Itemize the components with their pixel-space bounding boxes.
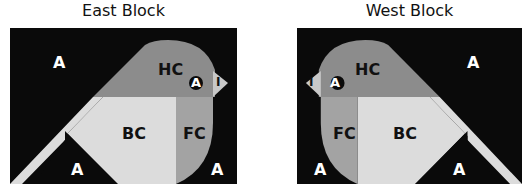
west-block-svg <box>297 28 522 184</box>
east-block-svg <box>10 28 237 184</box>
east-block-title: East Block <box>10 1 237 20</box>
label-air-bottom-right: A <box>453 160 465 179</box>
label-air-top-right: A <box>467 53 479 72</box>
label-body-crown: BC <box>393 124 417 143</box>
label-head-crown: HC <box>158 60 183 79</box>
label-air-top-left: A <box>53 53 65 72</box>
west-block-title: West Block <box>297 1 522 20</box>
label-air-bottom-left: A <box>71 160 83 179</box>
label-front-crown: FC <box>183 124 206 143</box>
east-block-diagram: A HC A I BC FC A A <box>10 28 237 184</box>
label-interior: I <box>309 75 313 89</box>
label-air-bottom-right: A <box>211 160 223 179</box>
label-front-crown: FC <box>333 124 356 143</box>
label-interior: I <box>216 75 220 89</box>
west-block-diagram: A HC A I FC BC A A <box>297 28 522 184</box>
label-head-crown: HC <box>355 60 380 79</box>
label-air-bottom-left: A <box>314 160 326 179</box>
label-eye-air: A <box>330 75 340 90</box>
label-eye-air: A <box>191 75 201 90</box>
label-body-crown: BC <box>122 124 146 143</box>
